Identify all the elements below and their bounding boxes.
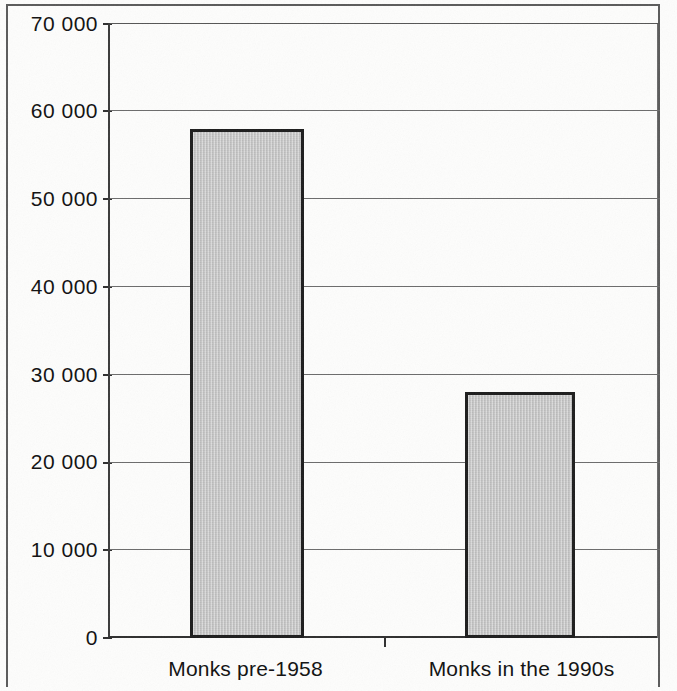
- y-tick-label-30000: 30 000: [31, 364, 98, 385]
- x-tick-label-monks-in-the-1990s: Monks in the 1990s: [384, 657, 659, 681]
- y-tick-label-50000: 50 000: [31, 188, 98, 209]
- y-tick-label-60000: 60 000: [31, 100, 98, 121]
- plot-area: [108, 23, 658, 638]
- bar-monks-in-the-1990s[interactable]: [465, 392, 575, 638]
- y-tick-label-10000: 10 000: [31, 539, 98, 560]
- y-tick-label-0: 0: [86, 627, 98, 648]
- y-axis-label-group: 70 000 60 000 50 000 40 000 30 000 20 00…: [0, 0, 98, 691]
- bar-monks-pre-1958[interactable]: [190, 129, 304, 638]
- y-tick-label-20000: 20 000: [31, 451, 98, 472]
- x-tick-label-monks-pre-1958: Monks pre-1958: [108, 657, 383, 681]
- x-tick-mark-category-divider: [384, 638, 386, 647]
- gridline-60000: [110, 110, 660, 111]
- y-tick-label-40000: 40 000: [31, 276, 98, 297]
- bar-chart-figure: 70 000 60 000 50 000 40 000 30 000 20 00…: [0, 0, 677, 691]
- gridline-70000: [110, 23, 660, 24]
- y-tick-label-70000: 70 000: [31, 13, 98, 34]
- plot-right-edge: [657, 23, 658, 638]
